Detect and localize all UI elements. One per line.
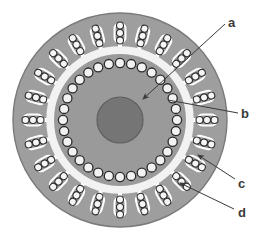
figure-canvas: abcd	[0, 0, 266, 239]
rotor-bar	[163, 84, 172, 93]
rotor-bar	[58, 115, 67, 124]
stator-conductor	[37, 117, 44, 124]
stator-conductor	[117, 37, 124, 44]
rotor-bar	[68, 147, 77, 156]
callout-label-b: b	[241, 107, 249, 120]
stator-conductor	[117, 204, 124, 211]
callout-label-d: d	[238, 206, 246, 219]
rotor-bar	[68, 84, 77, 93]
rotor-bar	[63, 94, 72, 103]
rotor-bar	[156, 156, 165, 165]
stator-conductor	[30, 117, 37, 124]
stator-conductor	[211, 117, 218, 124]
rotor-bar	[84, 163, 93, 172]
stator-conductor	[117, 211, 124, 218]
stator-conductor	[204, 117, 211, 124]
rotor-bar	[60, 104, 69, 113]
stator-conductor	[117, 30, 124, 37]
rotor-bar	[137, 168, 146, 177]
rotor-bar	[94, 168, 103, 177]
rotor-bar	[147, 163, 156, 172]
rotor-bar	[104, 171, 113, 180]
rotor-bar	[127, 60, 136, 69]
rotor-bar	[137, 63, 146, 72]
stator-conductor	[22, 117, 29, 124]
rotor-bar	[84, 68, 93, 77]
rotor-bar	[171, 104, 180, 113]
rotor-bar	[104, 60, 113, 69]
rotor-shaft	[97, 97, 143, 143]
rotor-bar	[60, 127, 69, 136]
rotor-bar	[127, 171, 136, 180]
callout-label-c: c	[238, 177, 245, 190]
rotor-bar	[147, 68, 156, 77]
rotor-bar	[115, 172, 124, 181]
rotor-bar	[94, 63, 103, 72]
rotor-bar	[172, 115, 181, 124]
rotor-bar	[163, 147, 172, 156]
stator-conductor	[196, 117, 203, 124]
stator-conductor	[117, 22, 124, 29]
rotor-bar	[171, 127, 180, 136]
motor-cross-section-diagram	[0, 0, 266, 239]
rotor-bar	[115, 58, 124, 67]
shaft-circle	[97, 97, 143, 143]
callout-label-a: a	[228, 16, 235, 29]
stator-conductor	[117, 196, 124, 203]
rotor-bar	[63, 137, 72, 146]
rotor-bar	[75, 75, 84, 84]
rotor-bar	[75, 156, 84, 165]
rotor-bar	[168, 137, 177, 146]
